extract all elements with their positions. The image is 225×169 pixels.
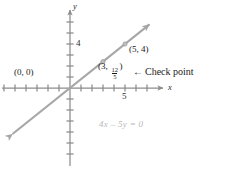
coordinate-plane-graph xyxy=(0,0,225,169)
check-point-text: Check point xyxy=(145,66,194,77)
line-4x-minus-5y-equals-0 xyxy=(13,24,150,134)
equation-label: 4x – 5y = 0 xyxy=(99,120,143,129)
left-arrow-icon: ← xyxy=(133,66,143,77)
point-label-3-12over5: (3, 125) xyxy=(98,62,123,81)
y-axis-label: y xyxy=(73,2,77,11)
fraction-suffix: ) xyxy=(120,61,123,71)
point-marker-5-4 xyxy=(123,42,127,46)
fraction-12-over-5: 125 xyxy=(111,67,120,81)
fraction-numerator: 12 xyxy=(111,67,120,74)
x-axis-label: x xyxy=(168,83,172,92)
x-axis xyxy=(2,84,163,91)
x-tick-label-5: 5 xyxy=(122,92,127,101)
point-label-5-4: (5, 4) xyxy=(129,45,149,54)
fraction-denominator: 5 xyxy=(112,73,117,81)
origin-point-label: (0, 0) xyxy=(14,68,34,77)
y-tick-label-4: 4 xyxy=(76,39,81,48)
fraction-prefix: (3, xyxy=(98,61,110,71)
check-point-annotation: ←Check point xyxy=(133,62,194,78)
